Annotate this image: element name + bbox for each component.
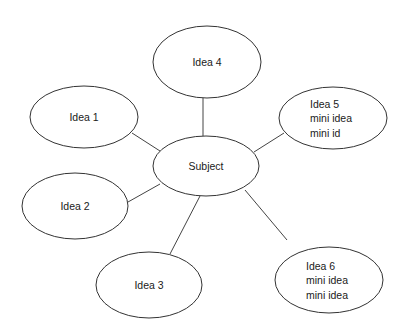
node-idea6[interactable]: Idea 6mini ideamini idea — [275, 247, 383, 313]
node-subitem: mini idea — [306, 289, 348, 301]
node-title: Idea 3 — [134, 279, 163, 291]
node-idea4[interactable]: Idea 4 — [153, 26, 261, 98]
node-title: Idea 6 — [306, 260, 335, 272]
central-node-subject[interactable]: Subject — [153, 136, 259, 196]
node-title: Idea 1 — [69, 111, 98, 123]
node-title: Idea 5 — [310, 98, 339, 110]
node-subitem: mini idea — [306, 274, 348, 286]
node-title: Idea 2 — [60, 200, 89, 212]
node-idea3[interactable]: Idea 3 — [96, 252, 202, 318]
connector-idea3 — [170, 196, 200, 254]
node-title: Idea 4 — [192, 56, 221, 68]
connector-idea2 — [128, 184, 160, 202]
mind-map-canvas: SubjectIdea 1Idea 2Idea 3Idea 4Idea 5min… — [0, 0, 410, 335]
node-idea2[interactable]: Idea 2 — [22, 173, 128, 239]
node-subitem: mini id — [310, 127, 341, 139]
connector-idea1 — [132, 133, 160, 151]
connector-idea6 — [245, 190, 287, 240]
node-title: Subject — [188, 160, 223, 172]
node-idea1[interactable]: Idea 1 — [30, 86, 138, 148]
node-subitem: mini idea — [310, 112, 352, 124]
node-idea5[interactable]: Idea 5mini ideamini id — [279, 87, 387, 149]
idea-nodes: SubjectIdea 1Idea 2Idea 3Idea 4Idea 5min… — [22, 26, 387, 318]
connector-idea5 — [254, 133, 284, 152]
